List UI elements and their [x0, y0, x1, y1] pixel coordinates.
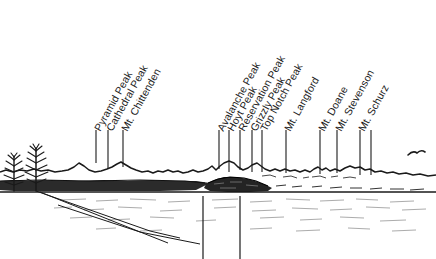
- dark-timber-band: [0, 180, 210, 191]
- panorama-illustration: Pyramid PeakCathedral PeakMt. Chittenden…: [0, 0, 436, 259]
- shore-diagonal-lines: [36, 191, 200, 244]
- bird-in-flight: [408, 151, 425, 155]
- secondary-ridge-fragments: [262, 175, 356, 178]
- foreground-marker-lines: [203, 196, 240, 259]
- shoreline-scatter: [276, 185, 424, 190]
- peak-leader-lines: [96, 130, 371, 175]
- dark-timbered-island: [204, 177, 272, 192]
